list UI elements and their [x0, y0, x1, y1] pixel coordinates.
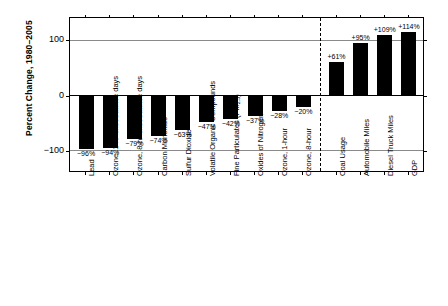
- x-axis-tick-mark: [206, 172, 207, 175]
- y-axis-tick-labels: 1000−100: [38, 17, 64, 172]
- x-axis-tick-mark: [278, 15, 279, 18]
- y-axis-tick-mark: [66, 40, 70, 41]
- y-axis-tick-mark: [423, 151, 427, 152]
- bar: [377, 35, 392, 95]
- x-axis-tick-mark: [182, 172, 183, 175]
- y-axis-tick-mark: [66, 151, 70, 152]
- x-axis-tick-mark: [408, 15, 409, 18]
- x-axis-tick-mark: [85, 172, 86, 175]
- x-axis-category-label: Automobile Miles: [363, 119, 371, 176]
- x-axis-tick-mark: [336, 172, 337, 175]
- x-axis-tick-mark: [302, 15, 303, 18]
- bar-value-label: +114%: [390, 23, 428, 31]
- x-axis-category-label: Sulfur Dioxide: [185, 129, 193, 176]
- x-axis-tick-mark: [336, 15, 337, 18]
- bar: [329, 62, 344, 96]
- x-axis-category-labels: LeadOzone, 1-hr exceedance daysOzone, 8-…: [69, 176, 424, 304]
- x-axis-tick-mark: [384, 15, 385, 18]
- y-axis-tick-mark: [423, 96, 427, 97]
- x-axis-tick-mark: [384, 172, 385, 175]
- x-axis-category-label: Oxides of Nitrogen: [257, 114, 265, 176]
- x-axis-category-label: Carbon Monoxide: [161, 117, 169, 176]
- bar-value-label: −63%: [164, 131, 202, 139]
- bar-value-label: +61%: [317, 53, 355, 61]
- chart-figure: Percent Change, 1980–2005 1000−100 −96%−…: [0, 0, 448, 306]
- x-axis-ticks-top: [69, 14, 424, 18]
- x-axis-tick-mark: [182, 15, 183, 18]
- x-axis-category-label: Ozone, 1-hour: [281, 128, 289, 176]
- bar-value-label: −20%: [284, 108, 322, 116]
- x-axis-category-label: Coal Usage: [339, 137, 347, 176]
- bar: [401, 32, 416, 95]
- x-axis-tick-mark: [408, 172, 409, 175]
- y-axis-tick-mark: [423, 40, 427, 41]
- section-divider: [320, 18, 321, 171]
- x-axis-tick-mark: [254, 172, 255, 175]
- y-axis-title: Percent Change, 1980–2005: [22, 0, 36, 163]
- x-axis-tick-mark: [360, 15, 361, 18]
- x-axis-tick-mark: [109, 15, 110, 18]
- bar: [79, 96, 94, 149]
- x-axis-category-label: Ozone, 1-hr exceedance days: [112, 76, 120, 176]
- x-axis-tick-mark: [158, 15, 159, 18]
- x-axis-category-label: Fine Particulates (PM2.5): [233, 94, 242, 176]
- bar: [296, 96, 311, 107]
- x-axis-tick-mark: [230, 172, 231, 175]
- x-axis-category-label: Diesel Truck Miles: [387, 115, 395, 176]
- y-axis-tick-label: 0: [38, 90, 64, 100]
- x-axis-tick-mark: [254, 15, 255, 18]
- x-axis-category-label: Lead: [88, 159, 96, 176]
- y-axis-tick-mark: [66, 96, 70, 97]
- x-axis-tick-mark: [360, 172, 361, 175]
- bar: [353, 43, 368, 96]
- y-axis-tick-label: 100: [38, 34, 64, 44]
- y-axis-tick-label: −100: [38, 145, 64, 155]
- x-axis-tick-mark: [133, 15, 134, 18]
- zero-baseline: [70, 95, 423, 97]
- bar-value-label: +95%: [342, 34, 380, 42]
- x-axis-category-label: GDP: [411, 160, 419, 176]
- x-axis-category-label: Volatile Organic Compounds: [209, 81, 217, 176]
- x-axis-tick-mark: [206, 15, 207, 18]
- x-axis-tick-mark: [158, 172, 159, 175]
- x-axis-tick-mark: [85, 15, 86, 18]
- x-axis-tick-mark: [230, 15, 231, 18]
- x-axis-category-label: Ozone, 8-hr exceedance days: [136, 76, 144, 176]
- x-axis-category-label: Ozone, 8-hour: [305, 128, 313, 176]
